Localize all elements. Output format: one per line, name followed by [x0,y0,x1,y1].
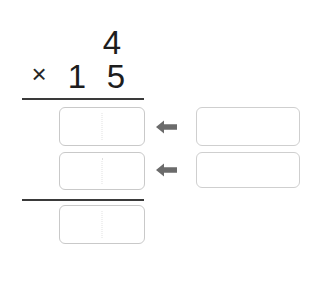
multiplication-worksheet: 4 × 1 5 [0,0,315,302]
work-box-row-1[interactable] [196,107,300,146]
top-operand-ones-digit: 4 [99,26,125,59]
total-tens-cell[interactable] [60,206,102,243]
total-ones-cell[interactable] [102,206,144,243]
partial-product-box-2[interactable] [59,152,145,190]
partial-product-2-ones-cell[interactable] [102,153,144,189]
total-separator-line [22,199,144,201]
bottom-operand-ones-digit: 5 [103,60,129,93]
bottom-operand-tens-digit: 1 [64,60,90,93]
work-box-row-2[interactable] [196,152,300,188]
partial-product-1-tens-cell[interactable] [60,108,102,145]
arrow-left-icon [156,119,178,135]
arrow-left-icon [156,162,178,178]
partial-product-2-tens-cell[interactable] [60,153,102,189]
operand-separator-line [22,98,144,100]
partial-product-box-1[interactable] [59,107,145,146]
partial-product-1-ones-cell[interactable] [102,108,144,145]
total-product-box[interactable] [59,205,145,244]
multiplication-operator-symbol: × [26,61,52,87]
